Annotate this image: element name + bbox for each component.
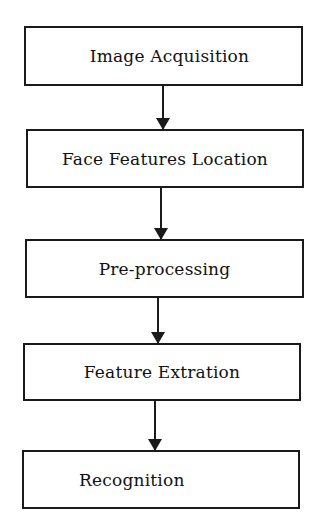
step-label: Feature Extration: [84, 362, 240, 382]
step-label: Face Features Location: [62, 149, 268, 169]
arrow-down-icon: [154, 401, 156, 450]
step-feature-extration: Feature Extration: [23, 343, 301, 401]
arrow-down-icon: [160, 188, 162, 239]
step-label: Image Acquisition: [78, 46, 249, 66]
arrow-down-icon: [162, 86, 164, 129]
step-face-features-location: Face Features Location: [26, 129, 304, 188]
step-pre-processing: Pre-processing: [25, 239, 304, 298]
step-image-acquisition: Image Acquisition: [24, 26, 303, 86]
arrow-down-icon: [157, 298, 159, 343]
step-recognition: Recognition: [22, 450, 300, 509]
step-label: Pre-processing: [99, 259, 231, 279]
step-label: Recognition: [24, 470, 185, 490]
